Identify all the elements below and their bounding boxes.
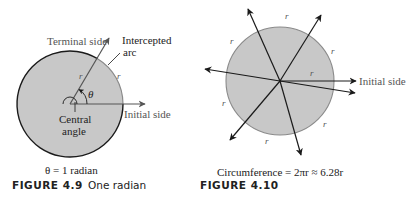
caption-title-4-9: One radian bbox=[88, 179, 146, 191]
intercepted-label: Intercepted bbox=[122, 34, 172, 46]
equation-4-10: Circumference = 2πr ≈ 6.28r bbox=[217, 166, 344, 178]
terminal-side-label: Terminal side bbox=[47, 35, 107, 47]
radius-label-1: r bbox=[79, 71, 83, 81]
intercepted-arc-leader bbox=[108, 53, 120, 65]
arc-r-label-5: r bbox=[222, 98, 226, 108]
caption-label-4-10: FIGURE 4.10 bbox=[200, 179, 279, 191]
radius-label-2: r bbox=[117, 71, 121, 81]
initial-side-label-4-9: Initial side bbox=[124, 108, 171, 120]
arc-r-label-4: r bbox=[310, 68, 314, 78]
arc-r-label-3: r bbox=[331, 46, 335, 56]
figure-canvas: Terminal side Intercepted arc r r θ Cent… bbox=[0, 0, 417, 200]
figure-4-10: r r r r r r r Initial side Circumference… bbox=[200, 9, 406, 191]
arc-r-label-2: r bbox=[230, 36, 234, 46]
angle-label: angle bbox=[62, 125, 86, 137]
caption-label-4-9: FIGURE 4.9 bbox=[12, 179, 83, 191]
initial-side-label-4-10: Initial side bbox=[359, 75, 406, 87]
equation-4-9: θ = 1 radian bbox=[45, 164, 98, 176]
figure-4-9: Terminal side Intercepted arc r r θ Cent… bbox=[12, 34, 172, 191]
arc-r-label-6: r bbox=[323, 119, 327, 129]
arc-r-label-7: r bbox=[265, 136, 269, 146]
arc-label: arc bbox=[123, 46, 137, 58]
central-label: Central bbox=[59, 113, 91, 125]
arc-r-label-1: r bbox=[285, 11, 289, 21]
theta-label: θ bbox=[88, 88, 94, 100]
